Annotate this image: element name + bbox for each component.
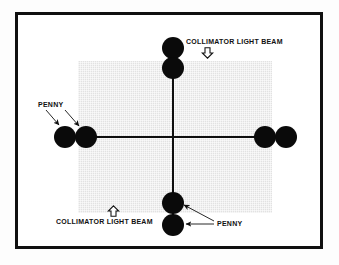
figure-frame-border: COLLIMATOR LIGHT BEAM COLLIMATOR LIGHT B… [15,12,323,249]
leader-lines-penny-bottom [18,15,308,245]
figure-root: COLLIMATOR LIGHT BEAM COLLIMATOR LIGHT B… [0,0,339,265]
